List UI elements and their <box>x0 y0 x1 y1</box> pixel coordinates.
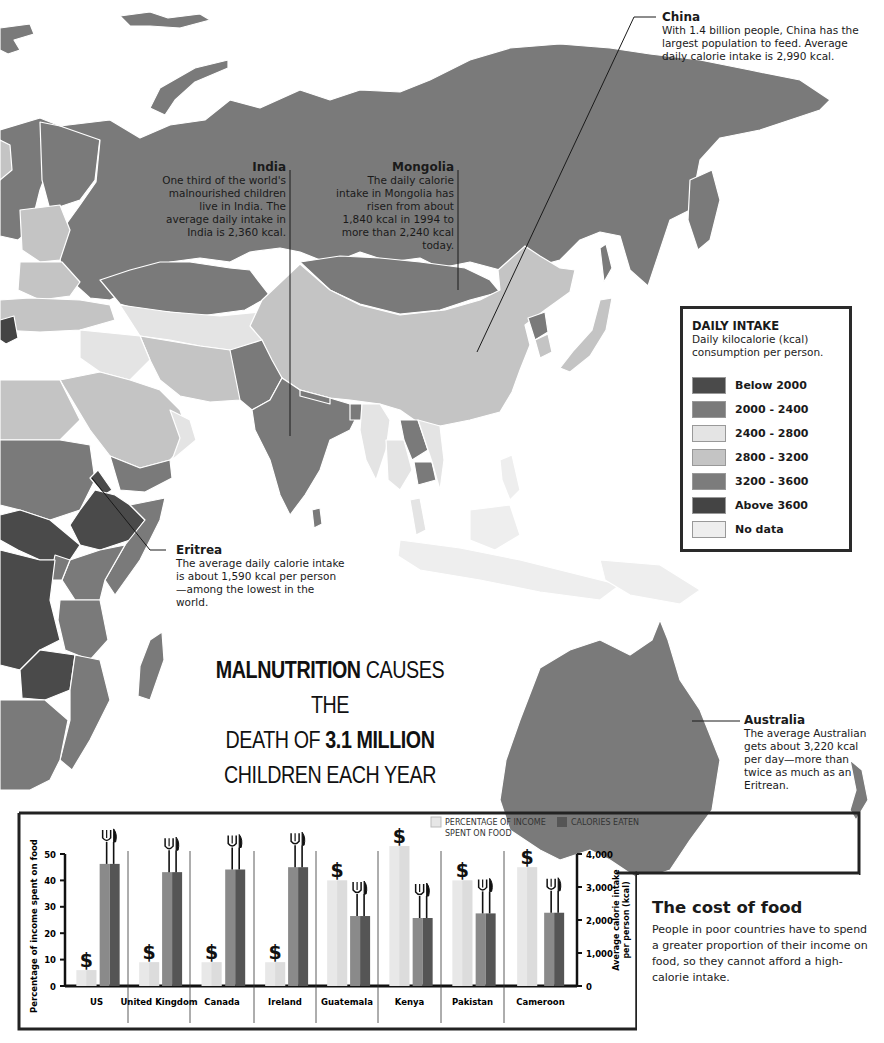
legend-swatch <box>692 401 726 418</box>
fork-knife-icon <box>103 829 117 864</box>
category-label: Kenya <box>395 997 425 1007</box>
legend-subtitle: Daily kilocalorie (kcal) consumption per… <box>692 333 842 359</box>
philippines <box>500 455 520 500</box>
headline-text-2: DEATH OF <box>225 726 325 753</box>
calorie-bar <box>225 870 235 986</box>
japan <box>560 298 612 372</box>
madagascar <box>138 632 164 700</box>
bangladesh <box>350 404 362 420</box>
calorie-bar <box>288 867 298 986</box>
legend-swatch <box>692 497 726 514</box>
legend-label: No data <box>735 523 784 536</box>
svalbard <box>0 24 34 54</box>
iraq-syria <box>80 330 150 380</box>
borneo <box>470 505 520 550</box>
legend-swatch <box>692 449 726 466</box>
calorie-bar <box>162 872 172 986</box>
tanzania <box>58 600 108 660</box>
dollar-icon: $ <box>269 941 282 963</box>
novaya-zemlya <box>150 60 228 115</box>
category-label: US <box>90 997 103 1007</box>
callout-mongolia-text: The daily calorie intake in Mongolia has… <box>336 174 454 251</box>
calorie-bar <box>476 913 486 986</box>
category-label: Pakistan <box>452 997 493 1007</box>
callout-china-text: With 1.4 billion people, China has the l… <box>662 24 859 62</box>
legend-item: 2400 - 2800 <box>692 421 849 445</box>
callout-mongolia: Mongolia The daily calorie intake in Mon… <box>334 160 454 252</box>
callout-india-text: One third of the world's malnourished ch… <box>162 174 286 238</box>
greece <box>0 316 18 344</box>
chart-legend-label-income: PERCENTAGE OF INCOME <box>445 818 546 827</box>
dollar-icon: $ <box>393 825 406 847</box>
legend-swatch <box>692 473 726 490</box>
headline-text-3: CHILDREN EACH YEAR <box>224 761 436 788</box>
svg-text:per person (kcal): per person (kcal) <box>622 881 631 958</box>
dollar-icon: $ <box>331 859 344 881</box>
callout-australia-text: The average Australian gets about 3,220 … <box>744 727 866 791</box>
dollar-icon: $ <box>205 941 218 963</box>
indonesia <box>398 540 620 600</box>
callout-mongolia-title: Mongolia <box>334 160 454 174</box>
callout-china-title: China <box>662 10 862 24</box>
legend-items: Below 20002000 - 24002400 - 28002800 - 3… <box>692 373 849 541</box>
y2-tick-label: 0 <box>586 982 592 992</box>
chart-legend-swatch-income <box>431 817 441 827</box>
legend-item: 3200 - 3600 <box>692 469 849 493</box>
headline-bold-2: 3.1 MILLION <box>325 726 434 753</box>
category-label: Guatemala <box>321 997 373 1007</box>
calorie-bar <box>100 864 110 986</box>
baltics-belarus <box>20 205 70 262</box>
legend-label: 3200 - 3600 <box>735 475 808 488</box>
y-tick-label: 40 <box>44 876 56 886</box>
new-guinea <box>600 560 700 604</box>
fork-knife-icon <box>416 883 430 918</box>
legend-label: Below 2000 <box>735 379 807 392</box>
category-label: Canada <box>204 997 240 1007</box>
category-label: United Kingdom <box>120 997 197 1007</box>
legend-item: Below 2000 <box>692 373 849 397</box>
chart-legend-label-calories: CALORIES EATEN <box>571 818 639 827</box>
category-label: Cameroon <box>516 997 565 1007</box>
svg-text:SPENT ON FOOD: SPENT ON FOOD <box>445 829 512 838</box>
callout-eritrea-title: Eritrea <box>176 543 346 557</box>
callout-eritrea: Eritrea The average daily calorie intake… <box>176 543 346 609</box>
legend-label: 2400 - 2800 <box>735 427 808 440</box>
sudan <box>0 440 95 520</box>
callout-india-title: India <box>160 160 286 174</box>
fork-knife-icon <box>291 832 305 867</box>
y2-axis-label: Average calorie intake <box>612 869 621 971</box>
cost-of-food-panel: The cost of food People in poor countrie… <box>652 898 872 986</box>
y2-tick-label: 2,000 <box>586 916 613 926</box>
calorie-bar <box>350 916 360 986</box>
franz-josef-land <box>120 12 210 28</box>
callout-australia: Australia The average Australian gets ab… <box>744 713 876 792</box>
dollar-icon: $ <box>456 859 469 881</box>
callout-china: China With 1.4 billion people, China has… <box>662 10 862 63</box>
legend-label: Above 3600 <box>735 499 808 512</box>
map-legend: DAILY INTAKE Daily kilocalorie (kcal) co… <box>680 306 852 552</box>
sakhalin <box>600 244 612 282</box>
legend-title: DAILY INTAKE <box>692 319 849 333</box>
y-tick-label: 20 <box>44 929 56 939</box>
y-tick-label: 0 <box>50 982 56 992</box>
cost-of-food-title: The cost of food <box>652 898 872 917</box>
fork-knife-icon <box>479 878 493 913</box>
callout-eritrea-text: The average daily calorie intake is abou… <box>176 557 345 608</box>
dollar-icon: $ <box>521 846 534 868</box>
y-tick-label: 30 <box>44 902 56 912</box>
legend-label: 2000 - 2400 <box>735 403 808 416</box>
fork-knife-icon <box>547 878 561 913</box>
legend-label: 2800 - 3200 <box>735 451 808 464</box>
y2-tick-label: 4,000 <box>586 850 613 860</box>
callout-india: India One third of the world's malnouris… <box>160 160 286 239</box>
callout-australia-title: Australia <box>744 713 876 727</box>
southern-africa <box>0 700 68 790</box>
chart-legend-swatch-calories <box>557 817 567 827</box>
fork-knife-icon <box>228 835 242 870</box>
dollar-icon: $ <box>80 949 93 971</box>
y-tick-label: 50 <box>44 850 56 860</box>
fork-knife-icon <box>165 837 179 872</box>
y-axis-label: Percentage of income spent on food <box>29 839 39 1013</box>
category-label: Ireland <box>268 997 302 1007</box>
headline-bold-1: MALNUTRITION <box>216 656 361 683</box>
